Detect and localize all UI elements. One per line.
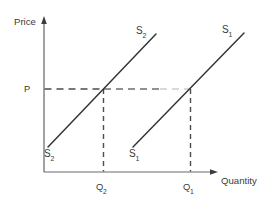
- supply-curve-s2: [48, 34, 156, 147]
- q1-tick-label: Q 1: [183, 181, 194, 195]
- x-axis-arrow-icon: [210, 169, 218, 175]
- y-axis-title: Price: [14, 16, 36, 27]
- supply-shift-diagram: Price Quantity P S 2 S 2 S 1 S 1 Q 2: [0, 0, 265, 200]
- supply-curve-s2-top-label-sub: 2: [143, 32, 147, 39]
- q2-tick-label-sub: 2: [103, 188, 107, 195]
- supply-curve-s1-top-label: S 1: [222, 24, 233, 38]
- supply-curve-s1-bottom-label: S 1: [129, 148, 140, 162]
- diagram-canvas: Price Quantity P S 2 S 2 S 1 S 1 Q 2: [0, 0, 265, 200]
- supply-curve-s2-bottom-label: S 2: [44, 148, 55, 162]
- supply-curve-s2-bottom-label-sub: 2: [51, 155, 55, 162]
- q2-tick-label: Q 2: [96, 181, 107, 195]
- supply-curve-s1: [133, 33, 244, 147]
- supply-curve-s1-top-label-sub: 1: [229, 31, 233, 38]
- supply-curves-group: [48, 33, 244, 147]
- x-axis-title: Quantity: [221, 175, 257, 186]
- y-axis-arrow-icon: [41, 16, 47, 24]
- price-level-label: P: [24, 83, 30, 94]
- reference-lines-group: [45, 89, 192, 172]
- q1-tick-label-sub: 1: [190, 188, 194, 195]
- supply-curve-s2-top-label: S 2: [136, 25, 147, 39]
- supply-curve-s1-bottom-label-sub: 1: [136, 155, 140, 162]
